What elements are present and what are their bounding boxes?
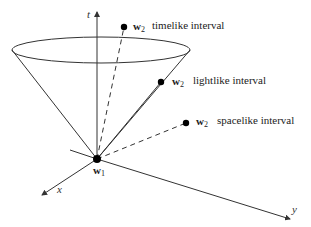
spacelike-interval-text: spacelike interval (217, 114, 294, 126)
x-axis-line (42, 159, 97, 195)
t-axis-label: t (87, 8, 91, 20)
x-axis-label: x (56, 183, 62, 195)
lightlike-event-label: w2 (172, 75, 184, 89)
origin-event-label: w1 (93, 164, 105, 178)
lightlike-event-dot (158, 79, 164, 85)
timelike-event-label: w2 (133, 20, 145, 34)
cone-left-edge (12, 50, 97, 159)
lightlike-interval-text: lightlike interval (193, 74, 266, 86)
x-axis (42, 150, 70, 195)
spacelike-event-dot (183, 120, 189, 126)
timelike-interval-text: timelike interval (152, 19, 224, 31)
origin-event-dot (93, 155, 101, 163)
timelike-connector (97, 27, 124, 159)
lightlike-connector (97, 82, 161, 159)
spacelike-connector (97, 123, 186, 159)
timelike-event-dot (121, 24, 127, 30)
y-axis-label: y (291, 203, 297, 215)
spacelike-event-label: w2 (196, 115, 208, 129)
light-cone-diagram: t x y w1 w2 timelike interval w2 lightli… (0, 0, 311, 227)
y-axis (97, 159, 290, 219)
cone-ellipse (12, 37, 190, 63)
